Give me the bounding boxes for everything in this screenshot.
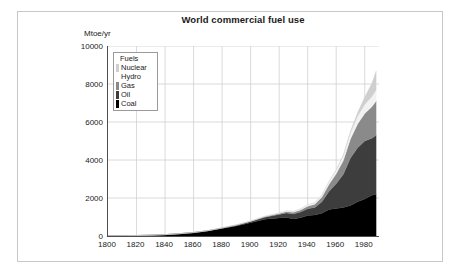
legend-label: Hydro (121, 72, 141, 81)
legend-item-coal: Coal (116, 99, 155, 108)
legend-item-nuclear: Nuclear (116, 63, 155, 72)
y-tick-2000: 2000 (69, 194, 103, 203)
y-tick-4000: 4000 (69, 156, 103, 165)
legend-item-oil: Oil (116, 90, 155, 99)
legend-item-gas: Gas (116, 81, 155, 90)
legend-item-hydro: Hydro (116, 72, 155, 81)
legend-title: Fuels (116, 54, 155, 63)
chart-figure: World commercial fuel use Mtoe/yr 020004… (0, 0, 459, 274)
y-axis-label: Mtoe/yr (84, 29, 111, 38)
legend-label: Gas (121, 81, 135, 90)
legend-swatch-oil-icon (116, 91, 119, 99)
legend-label: Coal (121, 99, 136, 108)
chart-title: World commercial fuel use (107, 14, 379, 25)
chart-legend: Fuels NuclearHydroGasOilCoal (113, 52, 158, 111)
legend-swatch-gas-icon (116, 82, 119, 90)
legend-swatch-hydro-icon (116, 73, 119, 81)
y-tick-6000: 6000 (69, 118, 103, 127)
y-tick-10000: 10000 (69, 42, 103, 51)
legend-label: Nuclear (121, 63, 147, 72)
x-axis-tick-labels: 1800182018401860188019001920194019601980 (107, 240, 378, 254)
legend-label: Oil (121, 90, 130, 99)
x-tick-1980: 1980 (344, 240, 384, 249)
y-axis-tick-labels: 0200040006000800010000 (66, 46, 103, 236)
legend-swatch-coal-icon (116, 100, 119, 108)
legend-items: NuclearHydroGasOilCoal (116, 63, 155, 108)
legend-swatch-nuclear-icon (116, 64, 119, 72)
y-tick-8000: 8000 (69, 80, 103, 89)
